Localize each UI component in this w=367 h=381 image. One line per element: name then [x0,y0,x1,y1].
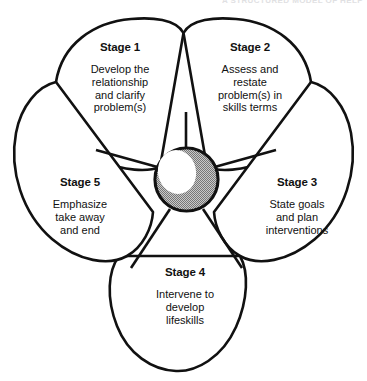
stage-5-line-3: and end [24,224,136,237]
stage-2-line-1: Assess and [188,63,312,76]
stage-2-title: Stage 2 [188,41,312,55]
stage-3-title: Stage 3 [237,176,357,190]
stage-2-line-3: problem(s) in [188,89,312,102]
stage-4-line-1: Intervene to [123,288,247,301]
stage-5-title: Stage 5 [24,176,136,190]
stage-1-line-1: Develop the [58,63,182,76]
stage-5-line-2: take away [24,211,136,224]
stage-5-body: Emphasize take away and end [24,198,136,237]
stage-3-line-3: interventions [237,224,357,237]
stage-3-body: State goals and plan interventions [237,198,357,237]
petal-label-stage-2: Stage 2 Assess and restate problem(s) in… [188,41,312,114]
stage-1-line-4: problem(s) [58,101,182,114]
stage-1-title: Stage 1 [58,41,182,55]
stage-4-line-3: lifeskills [123,314,247,327]
petal-label-stage-5: Stage 5 Emphasize take away and end [24,176,136,236]
stage-4-body: Intervene to develop lifeskills [123,288,247,327]
stage-4-line-2: develop [123,301,247,314]
stage-1-body: Develop the relationship and clarify pro… [58,63,182,115]
stage-1-line-2: relationship [58,76,182,89]
stage-2-body: Assess and restate problem(s) in skills … [188,63,312,115]
stage-2-line-2: restate [188,76,312,89]
stage-4-title: Stage 4 [123,266,247,280]
stage-1-line-3: and clarify [58,89,182,102]
stage-3-line-1: State goals [237,198,357,211]
stage-3-line-2: and plan [237,211,357,224]
petal-label-stage-1: Stage 1 Develop the relationship and cla… [58,41,182,114]
stage-5-line-1: Emphasize [24,198,136,211]
petal-label-stage-4: Stage 4 Intervene to develop lifeskills [123,266,247,326]
petal-label-stage-3: Stage 3 State goals and plan interventio… [237,176,357,236]
stage-2-line-4: skills terms [188,101,312,114]
lifeskills-helping-model-diagram: A STRUCTURED MODEL OF HELP [0,0,367,381]
